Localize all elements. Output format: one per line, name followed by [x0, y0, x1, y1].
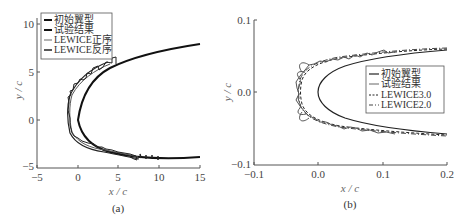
panel-a-xtick: 15 — [195, 171, 207, 183]
panel-b: −0.1 0.0 0.1 0.2 0.1 0.0 −0.1 x / c y / … — [221, 14, 454, 211]
panel-b-caption: (b) — [344, 198, 357, 211]
panel-b-ylabel: y / c — [221, 83, 233, 102]
legend-item: LEWICE2.0 — [381, 99, 431, 110]
panel-a-legend: 初始翼型 试验结果 LEWICE正序 LEWICE反序 — [41, 13, 112, 59]
panel-b-xtick: 0.0 — [311, 168, 325, 180]
panel-a-xlabel: x / c — [108, 185, 127, 197]
panel-a-ytick: 10 — [23, 18, 35, 30]
panel-a: −5 0 5 10 15 10 5 0 −5 x / c y / c (a) 初… — [12, 13, 206, 215]
panel-a-ylabel: y / c — [12, 81, 24, 100]
panel-a-xtick: 0 — [75, 171, 81, 183]
legend-item: LEWICE反序 — [54, 43, 112, 55]
panel-a-ytick: −5 — [22, 160, 34, 172]
panel-b-ytick: 0.1 — [237, 14, 251, 26]
panel-a-xtick: 5 — [115, 171, 121, 183]
panel-b-ytick: 0.0 — [237, 86, 251, 98]
panel-a-caption: (a) — [112, 202, 125, 215]
panel-a-ytick: 5 — [29, 66, 35, 78]
legend-item: 试验结果 — [381, 77, 421, 89]
panel-b-ytick: −0.1 — [231, 158, 251, 170]
panel-a-xtick: −5 — [31, 171, 43, 183]
panel-b-xtick: 0.2 — [440, 168, 454, 180]
figure: −5 0 5 10 15 10 5 0 −5 x / c y / c (a) 初… — [0, 0, 467, 224]
panel-b-xtick: 0.1 — [376, 168, 390, 180]
panel-a-ytick: 0 — [29, 114, 35, 126]
panel-b-legend: 初始翼型 试验结果 LEWICE3.0 LEWICE2.0 — [366, 66, 444, 113]
series-lewice-reverse — [68, 62, 139, 159]
panel-a-xtick: 10 — [154, 171, 166, 183]
series-initial-airfoil-a — [78, 44, 200, 158]
panel-b-xlabel: x / c — [340, 182, 359, 194]
